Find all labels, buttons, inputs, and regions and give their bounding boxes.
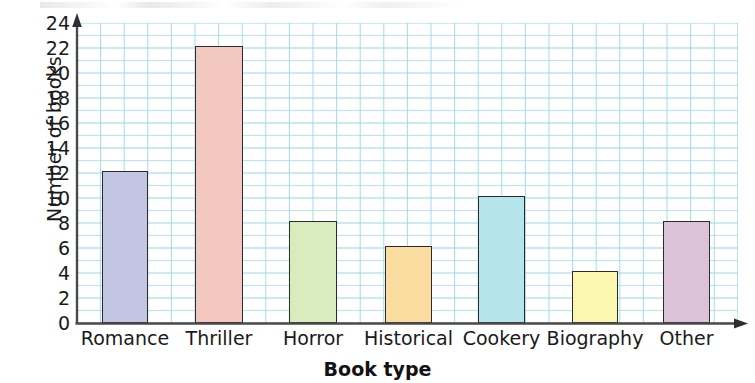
bar-biography [572,271,618,323]
y-tick-label-6: 6 [30,239,70,258]
x-tick-label-other: Other [627,329,747,348]
bars-layer [77,23,738,323]
bar-horror [289,221,337,323]
bar-chart-figure: Number of books 024681012141618202224 Ro… [0,0,755,383]
bar-thriller [195,46,243,323]
y-tick-label-20: 20 [30,64,70,83]
x-axis-title: Book type [0,358,755,380]
bar-historical [385,246,432,323]
y-tick-label-12: 12 [30,164,70,183]
y-tick-label-22: 22 [30,39,70,58]
scan-artifact [40,2,460,8]
y-tick-label-8: 8 [30,214,70,233]
y-tick-label-18: 18 [30,89,70,108]
y-axis-tick-labels: 024681012141618202224 [20,0,70,383]
bar-other [663,221,710,323]
y-tick-label-14: 14 [30,139,70,158]
y-tick-label-16: 16 [30,114,70,133]
bar-romance [102,171,148,323]
x-axis-tick-labels: RomanceThrillerHorrorHistoricalCookeryBi… [0,329,755,359]
y-tick-label-24: 24 [30,14,70,33]
y-tick-label-10: 10 [30,189,70,208]
y-tick-label-4: 4 [30,264,70,283]
bar-cookery [478,196,525,323]
y-tick-label-2: 2 [30,289,70,308]
